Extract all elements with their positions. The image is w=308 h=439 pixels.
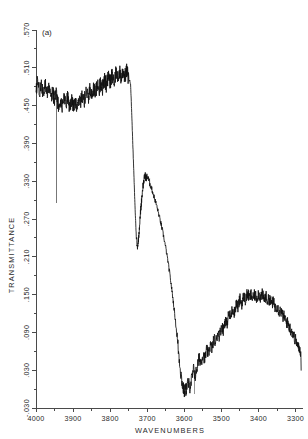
panel-label: (a): [42, 28, 52, 37]
y-axis-tick-labels: .570.510.450.390.330.270.210.150.090.030…: [22, 22, 31, 417]
trace-artifacts: [56, 94, 194, 394]
x-axis-tick-labels: 40003900380037003600350034003300: [27, 414, 304, 423]
tick-marks: [32, 30, 296, 412]
y-axis-title: TRANSMITTANCE: [7, 217, 16, 294]
y-tick-label: .030: [22, 363, 31, 378]
x-tick-label: 3600: [176, 414, 193, 423]
x-tick-label: 3800: [102, 414, 119, 423]
x-axis-title: WAVENUMBERS: [135, 426, 205, 435]
x-tick-label: 3500: [213, 414, 230, 423]
transmittance-spectrum-chart: .570.510.450.390.330.270.210.150.090.030…: [0, 0, 308, 439]
y-tick-label: .450: [22, 98, 31, 113]
x-tick-label: 3700: [139, 414, 156, 423]
x-tick-label: 3300: [287, 414, 304, 423]
y-tick-label: .510: [22, 60, 31, 75]
x-tick-label: 4000: [27, 414, 44, 423]
y-tick-label: .150: [22, 287, 31, 302]
x-tick-label: 3900: [64, 414, 81, 423]
y-tick-label: .570: [22, 22, 31, 37]
y-tick-label: .390: [22, 136, 31, 151]
y-tick-label: .270: [22, 211, 31, 226]
y-tick-label: .090: [22, 325, 31, 340]
y-tick-label: .330: [22, 174, 31, 189]
y-tick-label: .210: [22, 249, 31, 264]
axes: [36, 30, 303, 408]
x-tick-label: 3400: [250, 414, 267, 423]
spectrum-figure: .570.510.450.390.330.270.210.150.090.030…: [0, 0, 308, 439]
spectrum-trace: [36, 64, 301, 397]
